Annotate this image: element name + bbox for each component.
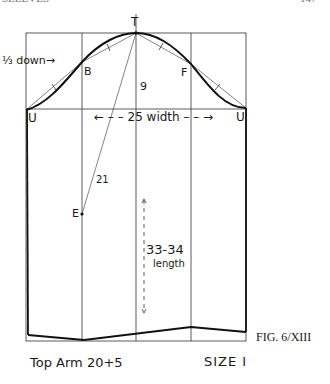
- figure-caption: FIG. 6/XIII: [256, 330, 311, 345]
- size-caption: SIZE I: [204, 355, 247, 368]
- width-annotation: ← – – 25 width – – →: [94, 111, 213, 123]
- length-value: 33-34: [146, 243, 184, 256]
- grid-lines: [26, 14, 246, 341]
- third-down-annotation: ⅓ down→: [2, 55, 55, 66]
- hem-line: [28, 327, 246, 340]
- point-label-e: E: [72, 208, 79, 219]
- point-label-b: B: [84, 66, 92, 77]
- elbow-line-label: 21: [96, 175, 109, 185]
- top-arm-caption: Top Arm 20+5: [30, 356, 123, 369]
- point-label-u-right: U: [236, 111, 245, 123]
- point-label-u-left: U: [28, 112, 37, 124]
- cap-height-label: 9: [140, 81, 147, 92]
- length-word: length: [153, 259, 185, 269]
- point-label-t: T: [131, 16, 138, 28]
- point-label-f: F: [181, 67, 187, 78]
